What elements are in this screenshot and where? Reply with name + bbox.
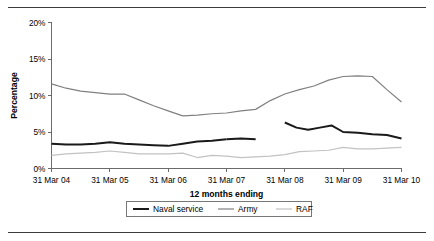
series-line-naval-service [285,123,402,139]
x-tick-label: 31 Mar 05 [91,175,129,185]
legend-label-raf: RAF [296,204,313,214]
x-axis-title-group: 12 months ending [190,189,264,199]
y-tick-label: 15% [29,54,46,64]
series-line-army [52,76,402,116]
axis-spine [52,23,402,169]
legend-label-naval-service: Naval service [153,204,204,214]
x-axis-title: 12 months ending [190,189,264,199]
chart-axes [48,23,402,173]
x-tick-label: 31 Mar 10 [383,175,421,185]
legend-label-army: Army [238,204,258,214]
y-tick-label: 20% [29,18,46,28]
series-line-naval-service [227,139,256,140]
chart-series-lines [52,76,402,158]
y-axis-title-group: Percentage [9,72,19,119]
line-chart: Percentage 0%5%10%15%20% 31 Mar 0431 Mar… [0,0,434,241]
x-axis-tick-labels: 31 Mar 0431 Mar 0531 Mar 0631 Mar 0731 M… [33,175,421,185]
chart-figure: Percentage 0%5%10%15%20% 31 Mar 0431 Mar… [0,0,434,241]
y-tick-label: 5% [34,127,47,137]
x-tick-label: 31 Mar 04 [33,175,71,185]
y-tick-label: 0% [34,164,47,174]
x-tick-label: 31 Mar 09 [324,175,362,185]
series-line-raf [52,147,402,157]
y-axis-tick-labels: 0%5%10%15%20% [29,18,46,174]
y-tick-label: 10% [29,91,46,101]
y-axis-title: Percentage [9,72,19,119]
x-tick-label: 31 Mar 08 [266,175,304,185]
x-tick-label: 31 Mar 06 [149,175,187,185]
series-line-naval-service [52,139,227,146]
x-tick-label: 31 Mar 07 [208,175,246,185]
chart-legend: Naval serviceArmyRAF [126,202,313,217]
